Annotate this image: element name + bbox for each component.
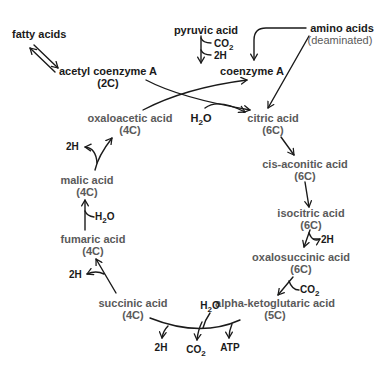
label-pyruvic-2h: 2H xyxy=(214,50,227,62)
node-cis-aconitic-acid: cis-aconitic acid xyxy=(262,158,348,170)
node-citric-acid: citric acid xyxy=(247,112,298,124)
akg-co2-branch xyxy=(197,322,202,340)
label-akg-h2o: H2O xyxy=(200,300,219,312)
fatty-acid-equilibrium-arrow xyxy=(30,45,58,72)
pyruvic-arrow xyxy=(201,36,211,63)
citric-to-cisaconitic-arrow xyxy=(281,137,294,155)
label-acetyl-coa-carbons: (2C) xyxy=(97,77,118,89)
label-isocitric-2h: 2H xyxy=(321,234,334,246)
akg-2h-branch xyxy=(162,326,168,338)
label-succinic-2h: 2H xyxy=(69,269,82,281)
akg-atp-branch xyxy=(229,324,232,338)
isocitric-to-oxalosuccinic-arrow xyxy=(304,230,320,247)
label-acetyl-coa: acetyl coenzyme A xyxy=(59,65,157,77)
label-fumaric-h2o: H2O xyxy=(95,211,114,223)
label-amino-acids: amino acids xyxy=(310,22,374,34)
node-oxaloacetic-acid-carbons: (4C) xyxy=(119,124,140,136)
succinic-to-fumaric-arrow xyxy=(87,259,116,293)
node-oxalosuccinic-acid: oxalosuccinic acid xyxy=(252,251,350,263)
label-coenzyme-a: coenzyme A xyxy=(220,65,284,77)
node-malic-acid: malic acid xyxy=(60,174,113,186)
node-oxaloacetic-acid: oxaloacetic acid xyxy=(88,112,173,124)
node-citric-acid-carbons: (6C) xyxy=(262,124,283,136)
label-malic-2h: 2H xyxy=(66,141,79,153)
node-fumaric-acid-carbons: (4C) xyxy=(82,245,103,257)
malic-to-oxaloacetic-arrow xyxy=(85,138,112,170)
acetyl-to-citric-arc xyxy=(146,80,250,110)
fumaric-to-malic-arrow xyxy=(85,200,94,230)
node-cis-aconitic-acid-carbons: (6C) xyxy=(294,170,315,182)
akg-h2o-branch xyxy=(203,313,210,328)
akg-to-succinic-arc xyxy=(150,318,240,329)
cisaconitic-to-isocitric-arrow xyxy=(305,182,309,207)
label-amino-acids-note: (deaminated) xyxy=(308,34,373,46)
label-h2o-citric: H2O xyxy=(191,112,212,124)
node-oxalosuccinic-acid-carbons: (6C) xyxy=(290,263,311,275)
node-isocitric-acid: isocitric acid xyxy=(277,207,344,219)
label-fatty-acids: fatty acids xyxy=(12,28,66,40)
label-oxalosuccinic-co2: CO2 xyxy=(300,284,319,296)
node-fumaric-acid: fumaric acid xyxy=(61,233,126,245)
node-succinic-acid: succinic acid xyxy=(98,297,167,309)
node-succinic-acid-carbons: (4C) xyxy=(122,309,143,321)
node-isocitric-acid-carbons: (6C) xyxy=(300,219,321,231)
label-pyruvic-acid: pyruvic acid xyxy=(174,24,238,36)
krebs-cycle-diagram: fatty acids pyruvic acid CO2 2H amino ac… xyxy=(0,0,385,373)
label-pyruvic-co2: CO2 xyxy=(214,38,233,50)
node-alpha-ketoglutaric-acid-carbons: (5C) xyxy=(264,309,285,321)
oxalosuccinic-to-akg-arrow xyxy=(278,277,299,295)
node-malic-acid-carbons: (4C) xyxy=(76,186,97,198)
arrows-layer xyxy=(0,0,385,373)
label-akg-2h: 2H xyxy=(155,342,168,354)
label-akg-co2: CO2 xyxy=(186,344,205,356)
label-akg-atp: ATP xyxy=(220,342,239,354)
node-alpha-ketoglutaric-acid: alpha-ketoglutaric acid xyxy=(215,297,335,309)
